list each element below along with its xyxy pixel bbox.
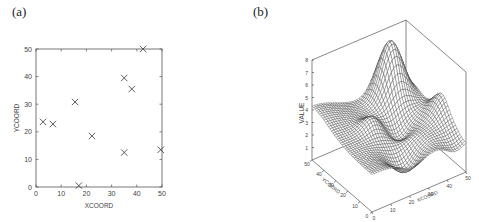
x-tick <box>466 172 467 174</box>
surface-plot: 123456780102030405001020304050 VALUE YCO… <box>298 20 471 221</box>
z-tick-label: 2 <box>305 132 308 138</box>
z-tick-label: 6 <box>305 82 308 88</box>
scatter-plot-frame <box>36 49 162 187</box>
z-tick-label: 4 <box>305 107 308 113</box>
x-tick-label: 10 <box>57 190 65 197</box>
scatter-point-marker <box>121 149 127 155</box>
x-tick-label: 10 <box>390 207 396 213</box>
x-tick <box>391 204 392 206</box>
scatter-plot: 0102030405001020304050 XCOORD YCOORD <box>13 46 166 210</box>
y-tick <box>334 181 336 183</box>
x-tick-label: 0 <box>373 215 376 221</box>
y-tick-label: 10 <box>352 203 358 209</box>
y-tick-label: 40 <box>24 73 32 80</box>
y-tick-label: 10 <box>24 156 32 163</box>
surface-y-axis-title: YCOORD <box>321 176 342 195</box>
scatter-point-marker <box>76 182 82 188</box>
z-tick-label: 8 <box>305 57 308 63</box>
y-tick-label: 50 <box>24 46 32 53</box>
y-tick-label: 20 <box>340 192 346 198</box>
y-tick-label: 0 <box>366 213 369 219</box>
scatter-point-marker <box>72 99 78 105</box>
scatter-point-marker <box>50 121 56 127</box>
scatter-point-marker <box>40 119 46 125</box>
scatter-points <box>40 46 164 189</box>
box-edge <box>406 20 466 72</box>
scatter-point-marker <box>158 147 164 153</box>
x-tick <box>447 180 448 182</box>
x-tick <box>428 188 429 190</box>
surface-wireframe <box>312 40 466 174</box>
scatter-point-marker <box>89 133 95 139</box>
x-tick-label: 20 <box>83 190 91 197</box>
figure-canvas: 0102030405001020304050 XCOORD YCOORD 123… <box>0 0 479 222</box>
box-edge <box>312 160 372 212</box>
x-tick-label: 40 <box>133 190 141 197</box>
z-tick-label: 1 <box>305 145 308 151</box>
scatter-point-marker <box>129 86 135 92</box>
y-tick-label: 30 <box>24 101 32 108</box>
y-tick-label: 20 <box>24 128 32 135</box>
surface-z-axis-title: VALUE <box>298 102 305 123</box>
x-tick-label: 40 <box>446 183 452 189</box>
y-tick <box>358 202 360 204</box>
x-tick-label: 30 <box>108 190 116 197</box>
x-tick-label: 50 <box>158 190 166 197</box>
scatter-x-axis-title: XCOORD <box>85 202 114 209</box>
y-tick <box>322 170 324 172</box>
z-tick-label: 7 <box>305 70 308 76</box>
z-tick-label: 3 <box>305 120 308 126</box>
x-tick-label: 20 <box>409 199 415 205</box>
y-tick <box>370 212 372 214</box>
box-edge <box>372 172 466 212</box>
scatter-y-axis-title: YCOORD <box>13 103 20 132</box>
x-tick <box>410 196 411 198</box>
y-tick <box>346 191 348 193</box>
scatter-axis-ticks: 0102030405001020304050 <box>24 46 166 198</box>
y-tick-label: 0 <box>28 184 32 191</box>
x-tick-label: 0 <box>34 190 38 197</box>
x-tick-label: 50 <box>465 175 471 181</box>
y-tick-label: 40 <box>316 171 322 177</box>
y-tick-label: 50 <box>304 161 310 167</box>
y-tick <box>310 160 312 162</box>
z-tick-label: 5 <box>305 95 308 101</box>
scatter-point-marker <box>121 75 127 81</box>
